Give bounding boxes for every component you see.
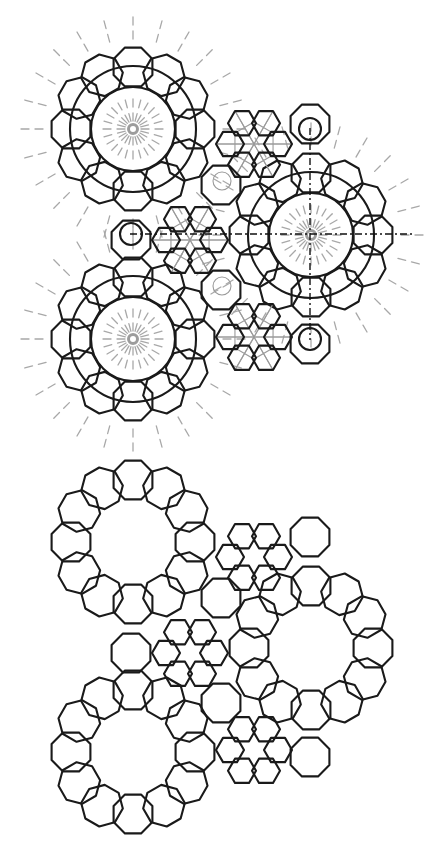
octagon [236,658,278,700]
construction-drawing [21,17,423,451]
octagon [143,575,185,617]
octagon [58,700,100,742]
octagon-inner-top [202,579,241,618]
octagon [81,575,123,617]
octagon [143,467,185,509]
octagon [81,677,123,719]
octagon [58,552,100,594]
octagon [81,785,123,827]
center-mark-icon [129,335,138,344]
octagon-top-right [291,518,330,557]
center-mark-icon [307,231,316,240]
octagon [81,467,123,509]
octagon-bottom-right [291,325,330,364]
octagon [236,596,278,638]
hex-cluster-top [216,524,292,590]
rosette-lower-left [52,671,215,834]
octagon [166,552,208,594]
small-guide-circle [213,172,231,190]
octagon [166,490,208,532]
final-pattern [52,461,393,834]
rosette-upper-left [21,17,245,241]
octagon [58,762,100,804]
octagon-bottom-right [291,738,330,777]
octagon-top-right [291,105,330,144]
octagon [166,762,208,804]
geometric-pattern-canvas [0,0,444,865]
octagon [321,681,363,723]
hex-cluster-bottom [216,717,292,783]
rosette-lower-left [21,227,245,451]
center-mark-icon [129,125,138,134]
octagon-inner-top [202,166,241,205]
hex-cluster-middle [152,620,228,686]
octagon-inner-bottom [202,684,241,723]
octagon-inner-bottom [202,271,241,310]
octagon-left [112,221,151,260]
octagon [344,596,386,638]
octagon [143,785,185,827]
octagon [143,677,185,719]
rosette-upper-left [52,461,215,624]
hex-cluster-middle [152,207,228,273]
small-guide-circle [213,277,231,295]
hex-cluster-top [216,111,292,177]
octagon [321,573,363,615]
rosette-right [230,567,393,730]
octagon [344,658,386,700]
octagon-left [112,634,151,673]
octagon [58,490,100,532]
